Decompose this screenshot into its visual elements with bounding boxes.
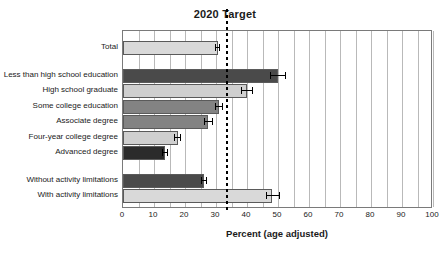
x-tick-label: 20 [180,210,189,219]
x-tick-label: 10 [149,210,158,219]
y-axis-label: Advanced degree [0,145,118,159]
x-tick-label: 80 [366,210,375,219]
plot-area [122,30,432,208]
y-axis-label: With activity limitations [0,188,118,202]
bar [123,115,208,129]
bar-row [123,174,433,188]
chart-container: 2020 Target TotalLess than high school e… [0,0,448,254]
y-axis-label: Total [0,40,118,54]
error-bar [266,195,280,196]
bar-row [123,69,433,83]
target-line [226,9,228,211]
bar-row [123,115,433,129]
x-tick-label: 70 [335,210,344,219]
bar-row [123,100,433,114]
x-tick-label: 40 [242,210,251,219]
error-bar [215,106,224,107]
bar [123,41,218,55]
x-tick-label: 100 [425,210,438,219]
error-bar [270,75,286,76]
x-tick-label: 0 [120,210,124,219]
bar [123,100,219,114]
bar [123,146,165,160]
y-axis-label: Less than high school education [0,68,118,82]
x-tick-label: 90 [397,210,406,219]
y-axis-label: Four-year college degree [0,130,118,144]
error-bar [201,180,208,181]
error-bar [204,121,213,122]
gridline [433,31,434,207]
bar-row [123,84,433,98]
bar [123,131,178,145]
y-axis-label: Associate degree [0,114,118,128]
bar-row [123,41,433,55]
x-axis-title: Percent (age adjusted) [122,228,432,239]
chart-title: 2020 Target [1,8,448,20]
bar [123,69,278,83]
bar-row [123,189,433,203]
y-axis-label: Without activity limitations [0,173,118,187]
bar [123,174,204,188]
x-tick-label: 30 [211,210,220,219]
bar-row [123,146,433,160]
error-bar [162,152,168,153]
x-tick-label: 50 [273,210,282,219]
error-bar [215,47,221,48]
bar-row [123,131,433,145]
error-bar [241,90,253,91]
error-bar [174,137,181,138]
bar [123,189,272,203]
bar [123,84,247,98]
x-tick-label: 60 [304,210,313,219]
y-axis-label: Some college education [0,99,118,113]
y-axis-label: High school graduate [0,83,118,97]
